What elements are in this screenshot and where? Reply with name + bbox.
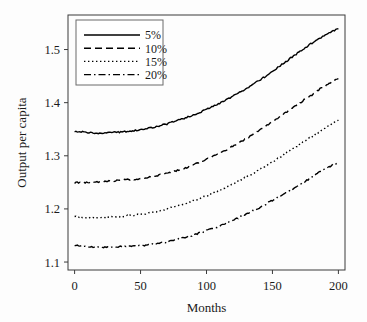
x-tick-label: 150 bbox=[263, 279, 282, 293]
legend-label-15pct: 15% bbox=[145, 55, 167, 69]
series-line-15pct bbox=[75, 120, 339, 218]
legend-label-20pct: 20% bbox=[145, 68, 167, 82]
series-line-20pct bbox=[75, 162, 339, 248]
chart-figure: 1.11.21.31.41.5050100150200MonthsOutput … bbox=[0, 0, 367, 322]
y-tick-label: 1.1 bbox=[44, 256, 60, 270]
y-tick-label: 1.2 bbox=[44, 202, 60, 216]
legend-label-5pct: 5% bbox=[145, 28, 161, 42]
x-tick-label: 0 bbox=[71, 279, 77, 293]
x-tick-label: 50 bbox=[134, 279, 147, 293]
y-tick-label: 1.4 bbox=[44, 96, 60, 110]
x-axis-title: Months bbox=[187, 300, 227, 315]
y-tick-label: 1.5 bbox=[44, 43, 60, 57]
legend-label-10pct: 10% bbox=[145, 42, 167, 56]
x-tick-label: 200 bbox=[329, 279, 348, 293]
x-tick-label: 100 bbox=[197, 279, 216, 293]
line-chart: 1.11.21.31.41.5050100150200MonthsOutput … bbox=[0, 0, 367, 322]
y-axis-title: Output per capita bbox=[14, 97, 29, 187]
y-tick-label: 1.3 bbox=[44, 149, 60, 163]
